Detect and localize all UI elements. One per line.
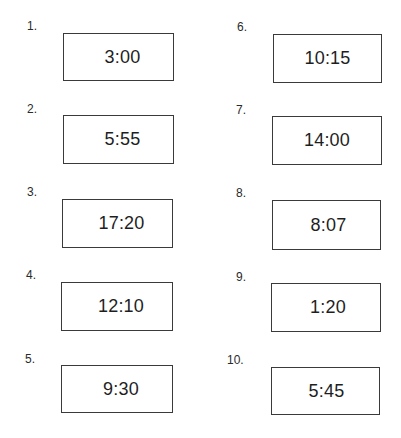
digital-time: 9:30 [95,379,139,400]
digital-time: 1:20 [306,297,346,318]
digital-time-box: 3:00 [63,33,174,81]
digital-time-box: 17:20 [62,199,173,248]
digital-time: 5:45 [307,381,345,402]
digital-time: 3:00 [97,47,141,68]
digital-time-box: 9:30 [61,365,173,413]
digital-time-box: 14:00 [272,116,382,165]
item-number: 3. [27,185,37,199]
digital-time: 17:20 [90,213,144,234]
item-number: 5. [25,352,35,366]
digital-time: 14:00 [304,130,350,151]
item-number: 9. [236,270,246,284]
item-number: 4. [26,268,36,282]
item-number: 6. [237,20,247,34]
digital-time-box: 10:15 [273,34,382,83]
digital-time-box: 5:55 [63,115,174,164]
digital-time-box: 12:10 [61,282,173,331]
item-number: 2. [27,102,37,116]
digital-time: 10:15 [304,48,350,69]
item-number: 8. [236,186,246,200]
item-number: 1. [27,19,37,33]
digital-time: 12:10 [90,296,144,317]
digital-time: 8:07 [307,215,347,236]
item-number: 7. [236,103,246,117]
digital-time-box: 8:07 [272,200,381,250]
digital-time-box: 1:20 [271,283,381,332]
digital-time: 5:55 [97,129,141,150]
item-number: 10. [227,353,244,367]
digital-time-box: 5:45 [271,367,380,415]
